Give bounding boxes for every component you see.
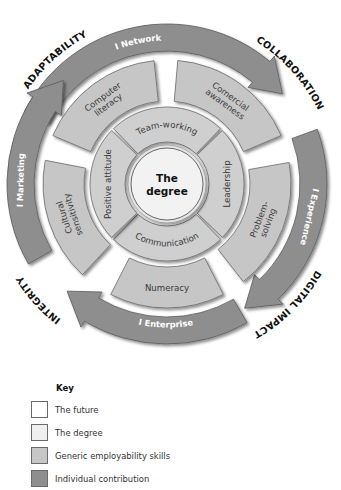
legend-swatch-generic-skills — [31, 447, 48, 464]
legend-label: The future — [55, 405, 99, 415]
legend-swatch-the-degree — [31, 424, 48, 441]
legend: Key The future The degree Generic employ… — [31, 383, 170, 490]
segment-label-line: Leadership — [222, 160, 232, 207]
the-degree-core: The degree — [128, 145, 206, 223]
segment-label-line: I Marketing — [15, 153, 26, 207]
legend-label: The degree — [55, 428, 103, 438]
employability-diagram: I NetworkI ExperienceI EnterpriseI Marke… — [0, 0, 341, 370]
core-label-line2: degree — [146, 185, 188, 197]
arrow-label-i-marketing: I Marketing — [15, 153, 26, 207]
core-circle — [131, 148, 203, 220]
segment-label-line: Positive attitude — [103, 149, 113, 219]
core-label-line1: The — [156, 172, 178, 184]
legend-title: Key — [56, 383, 170, 393]
segment-label-positive-attitude: Positive attitude — [103, 149, 113, 219]
legend-item-individual-contribution: Individual contribution — [31, 467, 170, 490]
skill-segment-numeracy: Numeracy — [111, 258, 224, 308]
legend-label: Generic employability skills — [55, 451, 170, 461]
segment-label-numeracy: Numeracy — [145, 283, 189, 293]
legend-swatch-individual-contribution — [31, 470, 48, 487]
legend-swatch-the-future — [31, 401, 48, 418]
legend-item-the-future: The future — [31, 398, 170, 421]
legend-label: Individual contribution — [55, 474, 149, 484]
segment-label-line: Numeracy — [145, 283, 189, 293]
legend-item-the-degree: The degree — [31, 421, 170, 444]
legend-item-generic-skills: Generic employability skills — [31, 444, 170, 467]
segment-label-leadership: Leadership — [222, 160, 232, 207]
outer-label-integrity: INTEGRITY — [13, 274, 62, 327]
